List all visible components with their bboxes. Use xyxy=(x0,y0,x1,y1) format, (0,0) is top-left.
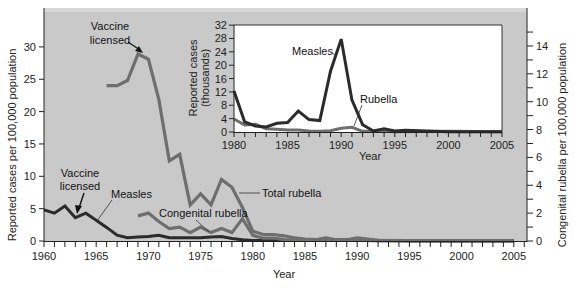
x-tick-label: 1980 xyxy=(241,250,265,262)
inset-x-tick-label: 1990 xyxy=(329,139,353,151)
rubella-measles-figure: 0510152025301960196519701975198019851990… xyxy=(0,0,575,288)
y2-tick-label: 4 xyxy=(536,179,542,191)
x-tick-label: 1960 xyxy=(32,250,56,262)
y2-tick-label: 14 xyxy=(536,40,548,52)
x-tick-label: 1990 xyxy=(345,250,369,262)
inset-y-tick-label: 8 xyxy=(221,99,227,111)
x-tick-label: 1975 xyxy=(188,250,212,262)
inset-x-tick-label: 2000 xyxy=(436,139,460,151)
y2-tick-label: 0 xyxy=(536,235,542,247)
y2-tick-label: 6 xyxy=(536,151,542,163)
inset-y-tick-label: 12 xyxy=(215,86,227,98)
main-y2-axis-title: Congenital rubella per 100,000 populatio… xyxy=(556,43,568,247)
annotation-congenital-rubella: Congenital rubella xyxy=(159,207,249,219)
inset-x-tick-label: 1985 xyxy=(275,139,299,151)
y-tick-label: 5 xyxy=(30,203,36,215)
inset-x-tick-label: 1995 xyxy=(383,139,407,151)
x-tick-label: 2000 xyxy=(449,250,473,262)
inset-x-axis-title: Year xyxy=(359,150,382,162)
y-tick-label: 15 xyxy=(24,138,36,150)
y-tick-label: 30 xyxy=(24,41,36,53)
x-tick-label: 1970 xyxy=(136,250,160,262)
main-x-axis-title: Year xyxy=(273,268,296,280)
inset-y-axis-title-line1: Reported cases xyxy=(187,39,199,117)
y-tick-label: 25 xyxy=(24,73,36,85)
y2-tick-label: 12 xyxy=(536,68,548,80)
inset-y-tick-label: 0 xyxy=(221,126,227,138)
inset-y-tick-label: 20 xyxy=(215,59,227,71)
panel-highlight xyxy=(44,8,527,12)
annotation-vaccine-licensed-measles-line2: licensed xyxy=(60,180,100,192)
y2-tick-label: 2 xyxy=(536,207,542,219)
annotation-vaccine-licensed-measles: Vaccine xyxy=(61,167,99,179)
inset-x-tick-label: 2005 xyxy=(490,139,514,151)
y2-tick-label: 10 xyxy=(536,96,548,108)
inset-y-tick-label: 28 xyxy=(215,32,227,44)
inset-x-tick-label: 1980 xyxy=(222,139,246,151)
inset-annotation-measles: Measles xyxy=(292,45,333,57)
inset-y-tick-label: 16 xyxy=(215,73,227,85)
annotation-vaccine-licensed-rubella: Vaccine xyxy=(91,20,129,32)
y-tick-label: 20 xyxy=(24,106,36,118)
x-tick-label: 1985 xyxy=(293,250,317,262)
inset-y-tick-label: 32 xyxy=(215,19,227,31)
inset-y-tick-label: 24 xyxy=(215,46,227,58)
x-tick-label: 2005 xyxy=(502,250,526,262)
inset-annotation-rubella: Rubella xyxy=(360,93,398,105)
y2-tick-label: 8 xyxy=(536,124,542,136)
annotation-measles: Measles xyxy=(111,188,152,200)
inset-y-tick-label: 4 xyxy=(221,113,227,125)
annotation-total-rubella: Total rubella xyxy=(262,187,322,199)
y-tick-label: 0 xyxy=(30,235,36,247)
x-tick-label: 1965 xyxy=(84,250,108,262)
y-tick-label: 10 xyxy=(24,170,36,182)
main-y-axis-title: Reported cases per 100,000 population xyxy=(6,49,18,242)
x-tick-label: 1995 xyxy=(397,250,421,262)
inset-y-axis-title-line2: (thousands) xyxy=(199,49,211,107)
annotation-vaccine-licensed-rubella-line2: licensed xyxy=(90,34,130,46)
inset-plot-background xyxy=(234,25,502,132)
